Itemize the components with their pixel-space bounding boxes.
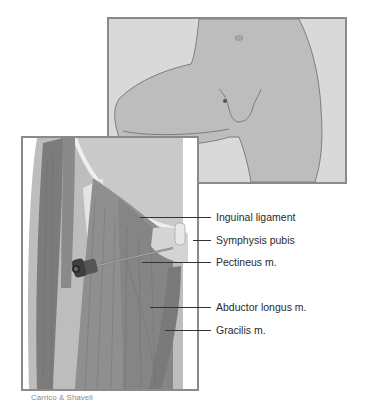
label-abductor-longus: Abductor longus m. <box>216 301 306 313</box>
leader-gracilis <box>165 330 211 331</box>
injection-point-marker <box>223 99 227 103</box>
leader-inguinal-ligament <box>140 217 211 218</box>
label-pectineus: Pectineus m. <box>216 256 277 268</box>
thigh-muscle-illustration <box>23 138 197 389</box>
anatomy-view-panel <box>21 136 199 391</box>
leader-pectineus <box>142 262 211 263</box>
label-symphysis-pubis: Symphysis pubis <box>216 234 295 246</box>
label-inguinal-ligament: Inguinal ligament <box>216 211 295 223</box>
leader-symphysis-pubis <box>193 240 211 241</box>
label-gracilis: Gracilis m. <box>216 324 266 336</box>
illustration-credit: Carrico & Shavell <box>31 393 93 402</box>
leader-abductor-longus <box>150 307 211 308</box>
